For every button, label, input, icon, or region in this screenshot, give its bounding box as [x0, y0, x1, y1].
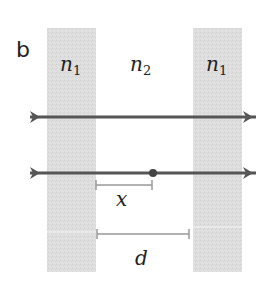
dimension-x-label: x [116, 187, 127, 211]
point-marker-icon [149, 169, 157, 177]
slab-diagram: b n1 n2 n1 x d [0, 0, 278, 286]
region-label-middle: n2 [130, 52, 151, 78]
dimension-d-label: d [135, 246, 148, 270]
panel-label: b [16, 37, 30, 62]
dimension-d [97, 229, 189, 239]
